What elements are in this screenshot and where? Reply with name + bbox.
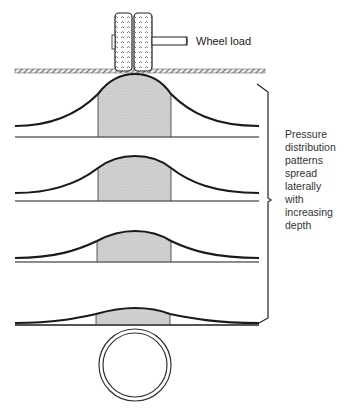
buried-pipe — [99, 329, 171, 401]
curly-brace — [257, 84, 271, 323]
annotation-line: depth — [285, 219, 336, 232]
annotation-line: spread — [285, 167, 336, 180]
pressure-layer-3 — [15, 231, 259, 262]
pressure-layer-2 — [15, 156, 259, 201]
dual-wheel — [112, 13, 187, 71]
pressure-annotation: Pressure distribution patterns spread la… — [285, 128, 336, 232]
wheel-right — [134, 13, 152, 71]
annotation-line: Pressure — [285, 128, 336, 141]
annotation-line: with — [285, 193, 336, 206]
hub — [112, 35, 115, 49]
annotation-line: distribution — [285, 141, 336, 154]
annotation-line: increasing — [285, 206, 336, 219]
pressure-layer-4 — [15, 308, 259, 325]
annotation-line: laterally — [285, 180, 336, 193]
axle — [152, 37, 187, 45]
annotation-line: patterns — [285, 154, 336, 167]
pressure-layer-1 — [15, 74, 259, 137]
wheel-load-label: Wheel load — [196, 35, 251, 47]
wheel-left — [115, 13, 132, 71]
